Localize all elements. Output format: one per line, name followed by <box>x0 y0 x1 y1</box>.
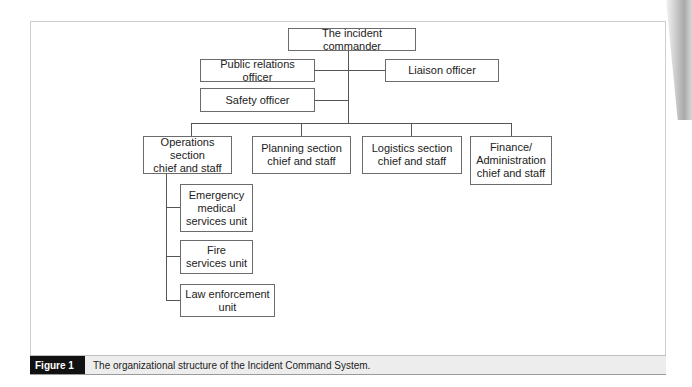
node-public-relations-officer: Public relations officer <box>200 59 315 82</box>
node-liaison-officer: Liaison officer <box>385 59 499 82</box>
node-law-enforcement-unit: Law enforcement unit <box>180 284 275 317</box>
connector-finance-drop <box>511 123 512 136</box>
connector-pr-liaison <box>314 70 385 71</box>
node-logistics-section: Logistics section chief and staff <box>362 136 462 174</box>
figure-label: Figure 1 <box>30 356 85 374</box>
connector-ops-units-spine <box>166 173 167 301</box>
connector-planning-drop <box>301 123 302 136</box>
connector-logistics-drop <box>411 123 412 136</box>
node-operations-section: Operations section chief and staff <box>143 136 232 174</box>
connector-safety <box>314 100 349 101</box>
page-curl-shadow <box>666 0 692 120</box>
node-planning-section: Planning section chief and staff <box>252 136 351 174</box>
node-incident-commander: The incident commander <box>288 28 416 51</box>
node-ems-unit: Emergency medical services unit <box>180 184 253 232</box>
node-finance-administration: Finance/ Administration chief and staff <box>470 136 552 185</box>
connector-ops-drop <box>191 123 192 136</box>
connector-ems <box>166 207 180 208</box>
node-safety-officer: Safety officer <box>200 88 315 112</box>
caption-text: The organizational structure of the Inci… <box>85 356 370 374</box>
connector-main-spine <box>348 50 349 124</box>
node-fire-services-unit: Fire services unit <box>180 240 253 274</box>
connector-law <box>166 300 180 301</box>
figure-caption: Figure 1 The organizational structure of… <box>30 355 666 375</box>
connector-section-bus <box>191 123 512 124</box>
connector-fire <box>166 256 180 257</box>
